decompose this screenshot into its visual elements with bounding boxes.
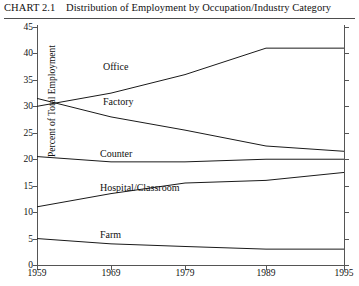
y-tick-mark-right [345,159,349,160]
y-tick-label: 10 [24,207,34,217]
plot-area: Office Factory Counter Hospital/Classroo… [37,27,345,265]
y-tick-label: 45 [24,22,34,32]
series-line-office [37,48,344,106]
y-axis-tick-labels: 051015202530354045 [0,27,33,265]
y-tick-mark-right [345,133,349,134]
series-line-factory [37,98,344,151]
y-tick-mark-right [345,186,349,187]
y-tick-label: 25 [24,128,34,138]
x-tick-label: 1995 [335,268,354,278]
series-line-counter [37,157,344,162]
series-label-farm: Farm [100,229,121,240]
y-tick-mark-right [345,265,349,266]
header-rule [4,18,355,19]
series-label-counter: Counter [100,148,132,159]
y-tick-mark-right [345,212,349,213]
y-tick-label: 40 [24,48,34,58]
series-label-hospital: Hospital/Classroom [100,182,179,193]
x-axis-tick-labels: 19591969197919891995 [0,268,359,282]
y-tick-mark-right [345,239,349,240]
series-line-hospital-classroom [37,172,344,206]
chart-figure: CHART 2.1 Distribution of Employment by … [0,0,359,286]
y-tick-label: 20 [24,154,34,164]
y-tick-mark-right [345,53,349,54]
chart-header: CHART 2.1 Distribution of Employment by … [4,1,355,20]
x-tick-label: 1959 [28,268,47,278]
y-tick-mark-right [345,80,349,81]
series-label-factory: Factory [103,96,134,107]
y-tick-mark-right [345,106,349,107]
chart-title: Distribution of Employment by Occupation… [66,2,331,13]
y-tick-label: 30 [24,101,34,111]
x-tick-label: 1989 [257,268,276,278]
series-lines [37,27,345,265]
series-label-office: Office [103,61,128,72]
y-tick-label: 35 [24,75,34,85]
x-tick-label: 1969 [102,268,121,278]
x-axis-bottom [37,265,345,266]
y-tick-label: 15 [24,181,34,191]
x-tick-label: 1979 [176,268,195,278]
series-line-farm [37,239,344,250]
chart-number: CHART 2.1 [4,2,55,13]
y-tick-mark-right [345,27,349,28]
